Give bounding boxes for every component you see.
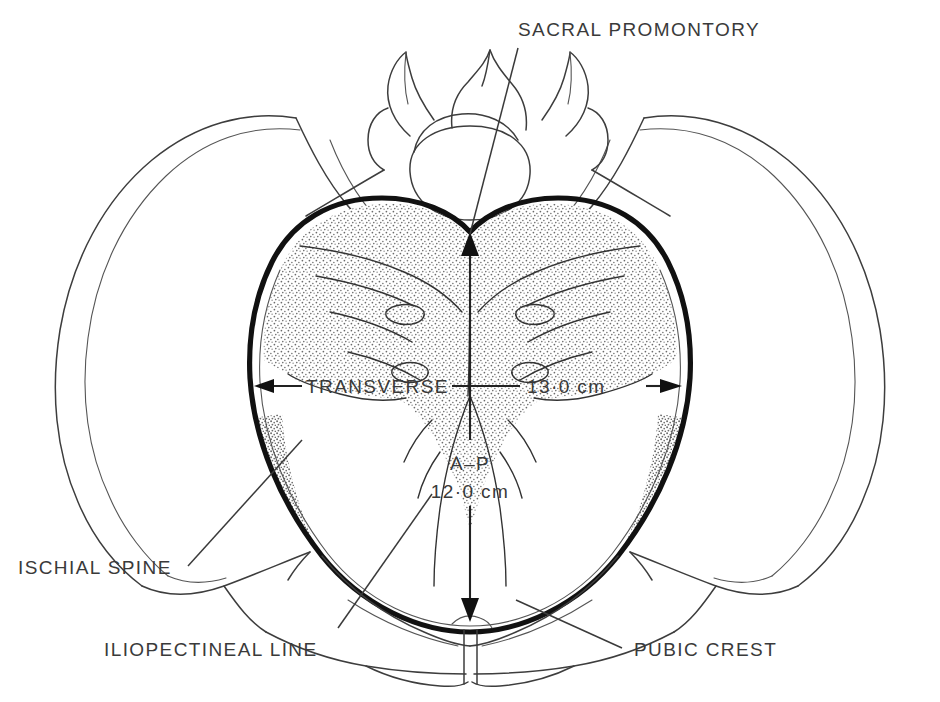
label-ap: A–P bbox=[450, 453, 490, 474]
label-transverse-value: 13·0 cm bbox=[527, 376, 605, 397]
label-iliopectineal-line: ILIOPECTINEAL LINE bbox=[104, 639, 318, 660]
lumbar-vertebra bbox=[306, 50, 670, 220]
label-transverse: TRANSVERSE bbox=[306, 376, 449, 397]
label-sacral-promontory: SACRAL PROMONTORY bbox=[518, 19, 760, 40]
label-ischial-spine: ISCHIAL SPINE bbox=[18, 557, 172, 578]
left-iliac-wing bbox=[55, 116, 310, 632]
label-pubic-crest: PUBIC CREST bbox=[634, 639, 777, 660]
label-ap-value: 12·0 cm bbox=[431, 481, 509, 502]
right-iliac-wing bbox=[630, 116, 885, 632]
figure-canvas: SACRAL PROMONTORY TRANSVERSE 13·0 cm A–P… bbox=[0, 0, 940, 702]
